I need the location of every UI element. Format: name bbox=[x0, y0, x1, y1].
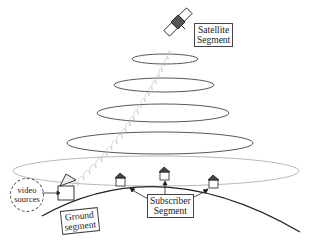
house-icon bbox=[159, 167, 170, 180]
satellite-icon bbox=[163, 7, 196, 40]
house-icon bbox=[115, 173, 126, 186]
ground-segment-label: Ground segment bbox=[60, 207, 100, 235]
house-icon bbox=[208, 175, 219, 188]
satellite-segment-label: Satellite Segment bbox=[194, 23, 233, 47]
label-line: sources bbox=[14, 195, 40, 204]
video-sources-label: video sources bbox=[10, 178, 44, 212]
label-line: Segment bbox=[150, 206, 191, 216]
label-line: segment bbox=[64, 219, 97, 232]
label-line: Segment bbox=[197, 35, 230, 45]
beam-coverage-ellipses bbox=[13, 54, 299, 186]
label-line: Satellite bbox=[197, 25, 230, 35]
subscriber-segment-label: Subscriber Segment bbox=[147, 194, 194, 218]
ground-station-dish-icon bbox=[58, 174, 76, 200]
label-line: Subscriber bbox=[150, 196, 191, 206]
